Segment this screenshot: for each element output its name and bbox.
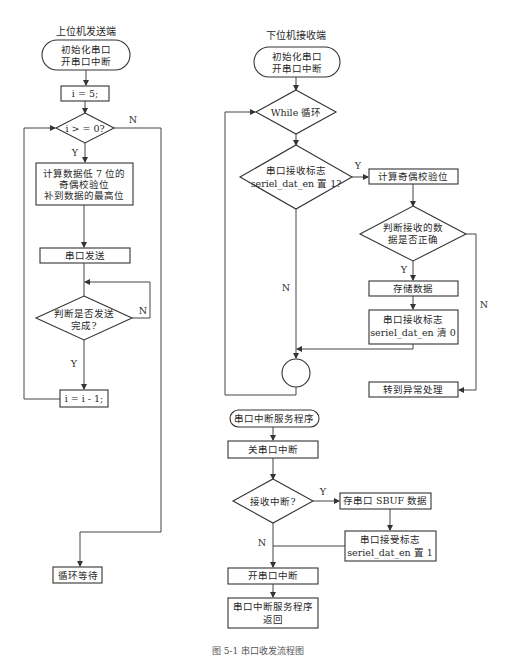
isr-return-line1: 串口中断服务程序 xyxy=(233,601,313,612)
isr-rx-check-node: 接收中断? xyxy=(233,479,313,523)
sender-init-node: 初始化串口 开串口中断 xyxy=(42,40,130,70)
receiver-flag-no-label: N xyxy=(282,282,290,293)
isr-enable-node: 开串口中断 xyxy=(228,568,318,584)
sender-decrement-text: i = i - 1; xyxy=(65,393,104,404)
receiver-flag-yes-label: Y xyxy=(354,160,362,171)
figure-caption: 图 5-1 串口收发流程图 xyxy=(212,645,304,656)
sender-flowchart: 上位机发送端 初始化串口 开串口中断 i = 5; i > = 0? N Y 计… xyxy=(24,25,161,584)
receiver-connector-circle xyxy=(282,359,310,387)
sender-send-text: 串口发送 xyxy=(65,250,105,261)
isr-disable-node: 关串口中断 xyxy=(228,441,318,458)
sender-cond-i-node: i > = 0? xyxy=(56,113,114,143)
sender-calc-line3: 补到数据的最高位 xyxy=(44,190,124,201)
sender-calc-parity-node: 计算数据低 7 位的 奇偶校验位 补到数据的最高位 xyxy=(36,163,133,205)
sender-wait-node: 循环等待 xyxy=(53,567,102,583)
receiver-init-line2: 开串口中断 xyxy=(272,63,322,74)
isr-rx-yes-label: Y xyxy=(319,486,327,497)
sender-init-line1: 初始化串口 xyxy=(61,44,111,55)
isr-save-sbuf-node: 存串口 SBUF 数据 xyxy=(340,493,431,509)
sender-calc-line1: 计算数据低 7 位的 xyxy=(43,168,125,179)
receiver-init-line1: 初始化串口 xyxy=(272,51,322,62)
receiver-calc-parity-node: 计算奇偶校验位 xyxy=(369,169,458,184)
receiver-clear-line2: seriel_dat_en 清 0 xyxy=(370,327,456,339)
receiver-flag-line2: seriel_dat_en 置 1? xyxy=(251,178,342,190)
sender-check-sent-node: 判断是否发送 完成? xyxy=(36,296,132,340)
receiver-verify-no-label: N xyxy=(480,299,488,310)
sender-check-yes-label: Y xyxy=(70,358,78,369)
isr-start-node: 串口中断服务程序 xyxy=(230,410,319,427)
receiver-error-text: 转到异常处理 xyxy=(383,384,443,395)
receiver-while-text: While 循环 xyxy=(271,107,322,118)
sender-check-line2: 完成? xyxy=(71,320,96,331)
receiver-while-node: While 循环 xyxy=(256,90,336,134)
receiver-verify-line2: 据是否正确 xyxy=(388,234,438,245)
receiver-verify-yes-label: Y xyxy=(400,264,408,275)
receiver-error-node: 转到异常处理 xyxy=(369,382,458,397)
receiver-flag-check-node: 串口接收标志 seriel_dat_en 置 1? xyxy=(240,145,352,209)
isr-set-flag-line1: 串口接受标志 xyxy=(360,534,420,545)
isr-set-flag-line2: seriel_dat_en 置 1 xyxy=(347,547,433,559)
receiver-clear-flag-node: 串口接收标志 seriel_dat_en 清 0 xyxy=(369,310,458,344)
sender-init-line2: 开串口中断 xyxy=(61,56,111,67)
receiver-clear-line1: 串口接收标志 xyxy=(383,314,443,325)
sender-cond-i-no-label: N xyxy=(129,114,137,125)
isr-return-line2: 返回 xyxy=(263,614,283,625)
isr-rx-no-label: N xyxy=(258,537,266,548)
sender-decrement-node: i = i - 1; xyxy=(60,390,108,407)
sender-check-line1: 判断是否发送 xyxy=(54,308,114,319)
isr-enable-text: 开串口中断 xyxy=(248,570,298,581)
sender-check-no-label: N xyxy=(139,305,147,316)
isr-set-flag-node: 串口接受标志 seriel_dat_en 置 1 xyxy=(345,531,436,561)
sender-cond-i-text: i > = 0? xyxy=(65,123,104,134)
receiver-verify-line1: 判断接收的数 xyxy=(383,222,443,233)
sender-set-i-text: i = 5; xyxy=(72,88,98,99)
isr-start-text: 串口中断服务程序 xyxy=(234,413,314,424)
isr-return-node: 串口中断服务程序 返回 xyxy=(228,598,318,628)
isr-disable-text: 关串口中断 xyxy=(248,444,298,455)
receiver-calc-text: 计算奇偶校验位 xyxy=(378,171,448,182)
receiver-flag-line1: 串口接收标志 xyxy=(266,165,326,176)
sender-title: 上位机发送端 xyxy=(56,25,116,37)
sender-set-i-node: i = 5; xyxy=(61,86,109,101)
receiver-init-node: 初始化串口 开串口中断 xyxy=(254,47,340,77)
isr-rx-check-text: 接收中断? xyxy=(250,496,295,507)
receiver-verify-node: 判断接收的数 据是否正确 xyxy=(360,206,466,261)
sender-calc-line2: 奇偶校验位 xyxy=(59,179,109,190)
receiver-title: 下位机接收端 xyxy=(266,29,326,41)
flowchart-canvas: 上位机发送端 初始化串口 开串口中断 i = 5; i > = 0? N Y 计… xyxy=(0,0,509,656)
sender-cond-i-yes-label: Y xyxy=(71,147,79,158)
sender-wait-text: 循环等待 xyxy=(58,570,98,581)
receiver-flowchart: 下位机接收端 初始化串口 开串口中断 While 循环 串口接收标志 serie… xyxy=(225,29,488,398)
isr-flowchart: 串口中断服务程序 关串口中断 接收中断? Y N 存串口 SBUF 数据 串口接… xyxy=(228,410,436,628)
isr-save-sbuf-text: 存串口 SBUF 数据 xyxy=(343,495,427,506)
receiver-store-text: 存储数据 xyxy=(393,283,433,294)
receiver-store-node: 存储数据 xyxy=(369,281,458,296)
sender-send-node: 串口发送 xyxy=(40,248,130,263)
